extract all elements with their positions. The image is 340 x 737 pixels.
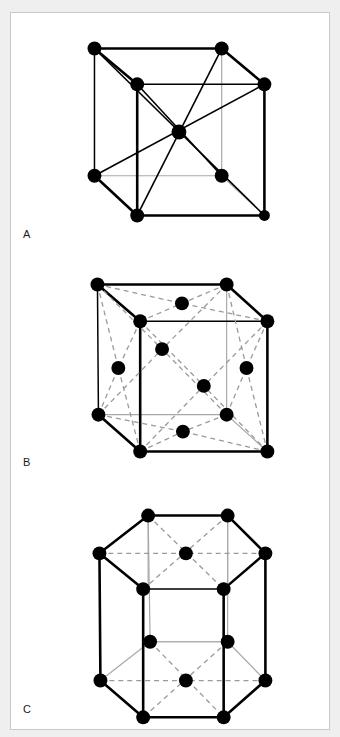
atom-face-center: [155, 342, 169, 356]
atom-corner: [217, 710, 231, 724]
atom-corner: [141, 509, 155, 523]
figure-page: A: [10, 12, 330, 730]
atom-corner: [221, 509, 235, 523]
atom-corner: [220, 278, 234, 292]
atom-corner: [136, 582, 150, 596]
atom-face-center-bottom: [179, 674, 193, 688]
atom-corner: [143, 635, 157, 649]
atom-corner: [88, 42, 102, 56]
atom-corner: [260, 314, 274, 328]
panel-label-b: B: [23, 456, 31, 468]
panel-a-bcc: A: [11, 13, 329, 253]
atom-corner: [92, 546, 106, 560]
atom-corner: [259, 210, 270, 221]
atom-corner: [258, 674, 272, 688]
hcp-hidden-edges: [100, 516, 265, 681]
atom-corner: [215, 42, 229, 56]
atom-face-center: [240, 361, 254, 375]
hcp-atoms: [92, 509, 272, 725]
panel-label-a: A: [23, 228, 31, 240]
bcc-unit-cell-diagram: [11, 13, 329, 253]
panel-label-c: C: [23, 703, 31, 715]
atom-corner: [257, 77, 271, 91]
atom-corner: [133, 314, 147, 328]
panel-b-fcc: B: [11, 253, 329, 481]
hcp-vertical-edges: [99, 516, 265, 718]
atom-corner: [215, 169, 229, 183]
atom-corner: [217, 582, 231, 596]
atom-corner: [91, 278, 105, 292]
atom-face-center: [197, 379, 211, 393]
atom-corner: [130, 77, 144, 91]
atom-corner: [136, 710, 150, 724]
atom-face-center-top: [179, 546, 193, 560]
atom-corner: [133, 445, 147, 459]
atom-corner: [258, 546, 272, 560]
atom-corner: [130, 209, 144, 223]
fcc-unit-cell-diagram: [11, 253, 329, 481]
panel-c-hcp: C: [11, 481, 329, 731]
atom-corner: [88, 169, 102, 183]
atom-body-center: [171, 125, 186, 140]
atom-corner: [220, 408, 234, 422]
atom-face-center: [176, 425, 190, 439]
atom-corner: [93, 674, 107, 688]
atom-corner: [260, 445, 274, 459]
atom-corner: [91, 408, 105, 422]
hcp-unit-cell-diagram: [11, 481, 329, 731]
atom-face-center: [111, 361, 125, 375]
atom-face-center: [175, 296, 189, 310]
atom-corner: [221, 635, 235, 649]
